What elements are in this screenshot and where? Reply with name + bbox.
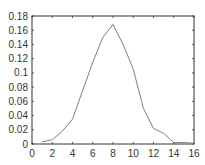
- x-tick-label: 8: [110, 148, 116, 159]
- y-tick-label: 0: [22, 139, 28, 150]
- y-tick-label: 0.14: [9, 39, 29, 50]
- y-tick-label: 0.12: [9, 53, 29, 64]
- x-tick-label: 6: [90, 148, 96, 159]
- y-tick-label: 0.16: [9, 25, 29, 36]
- x-tick-label: 4: [70, 148, 76, 159]
- y-tick-label: 0.1: [14, 67, 28, 78]
- x-tick-label: 10: [128, 148, 140, 159]
- y-tick-label: 0.18: [9, 11, 29, 22]
- plot-area: [32, 16, 194, 144]
- x-tick-label: 2: [49, 148, 55, 159]
- x-tick-label: 0: [29, 148, 35, 159]
- y-tick-label: 0.08: [9, 82, 29, 93]
- y-tick-label: 0.02: [9, 124, 29, 135]
- x-tick-label: 16: [188, 148, 200, 159]
- line-chart: 00.020.040.060.080.10.120.140.160.18 024…: [0, 0, 205, 165]
- x-tick-label: 12: [148, 148, 160, 159]
- y-tick-label: 0.06: [9, 96, 29, 107]
- x-tick-label: 14: [168, 148, 180, 159]
- y-tick-label: 0.04: [9, 110, 29, 121]
